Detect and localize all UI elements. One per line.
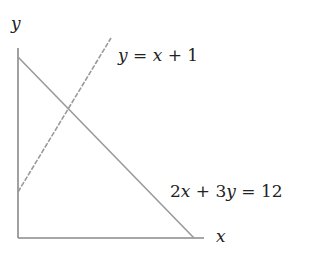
line-y-x-plus-1: [18, 38, 111, 192]
label-plus: +: [162, 45, 187, 65]
label-coef-b: 3: [215, 181, 226, 201]
y-axis-label: y: [11, 15, 21, 32]
x-axis-label: x: [216, 228, 226, 245]
label-equals: =: [236, 181, 261, 201]
label-var-x: x: [181, 181, 191, 201]
line-2x-3y-12-label: 2x + 3y = 12: [170, 183, 283, 200]
label-var-y: y: [226, 181, 236, 201]
label-coef-a: 2: [170, 181, 181, 201]
label-var-x: x: [153, 45, 163, 65]
line-2x-3y-12: [18, 57, 194, 238]
line-y-x-plus-1-label: y = x + 1: [118, 47, 198, 64]
diagram-canvas: [0, 0, 312, 264]
label-equals: =: [128, 45, 153, 65]
label-const: 12: [261, 181, 283, 201]
label-plus: +: [190, 181, 215, 201]
label-var-y: y: [118, 45, 128, 65]
label-const: 1: [187, 45, 198, 65]
